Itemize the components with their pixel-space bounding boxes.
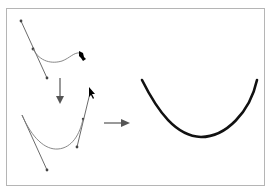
step1-handle-point-bottom [46,77,49,80]
step2-curve-preview [22,115,83,149]
step1-curve-preview [33,49,80,62]
right-arrow [104,119,130,127]
step1-handle-point-top [20,20,23,23]
pen-drag-cursor-icon [79,51,86,61]
step1-group [20,20,86,80]
arrow-cursor-icon [89,87,95,99]
down-arrow [56,78,64,104]
diagram-canvas [0,0,274,196]
step2-handle-point-right [76,146,79,149]
step2-handle-point-left [46,169,49,172]
final-curve [142,80,257,137]
